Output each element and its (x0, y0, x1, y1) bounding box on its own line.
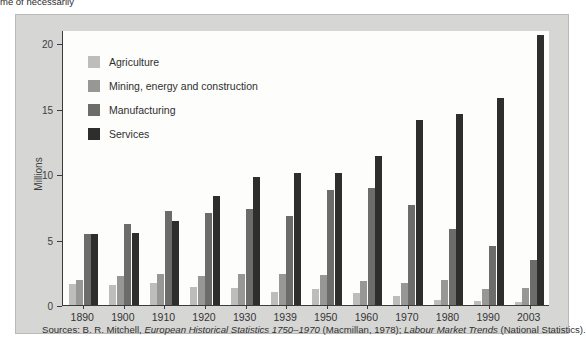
bar-group (474, 31, 504, 305)
bar (522, 288, 529, 305)
bar (165, 211, 172, 305)
bar (456, 114, 463, 305)
bar (150, 283, 157, 305)
bar (312, 289, 319, 305)
cut-off-body-text: me of necessarily (0, 0, 180, 8)
bar (360, 281, 367, 305)
y-tick-label: 20 (27, 39, 53, 50)
bar (231, 288, 238, 305)
y-tick-mark (57, 306, 62, 307)
bar (76, 280, 83, 305)
bar-group (393, 31, 423, 305)
legend-label: Mining, energy and construction (109, 80, 258, 92)
bar (335, 173, 342, 305)
bar (91, 234, 98, 305)
x-tick-mark (205, 305, 206, 309)
bar (294, 173, 301, 305)
bar (408, 205, 415, 305)
bar (393, 296, 400, 305)
bar (271, 292, 278, 305)
bar (482, 289, 489, 305)
x-tick-label: 1939 (265, 311, 305, 323)
bar (401, 283, 408, 305)
x-tick-mark (449, 305, 450, 309)
legend-swatch-icon (88, 128, 100, 140)
y-tick-label: 15 (27, 104, 53, 115)
x-tick-mark (327, 305, 328, 309)
x-tick-mark (367, 305, 368, 309)
source-prefix: Sources: B. R. Mitchell, (42, 324, 144, 335)
bar (497, 98, 504, 305)
bar (353, 293, 360, 305)
bar (327, 190, 334, 305)
bar (286, 216, 293, 305)
bar (124, 224, 131, 305)
legend-item: Agriculture (88, 51, 348, 72)
bar-group (515, 31, 545, 305)
legend-label: Services (109, 128, 149, 140)
source-title-one: European Historical Statistics 1750–1970 (144, 324, 319, 335)
x-tick-mark (124, 305, 125, 309)
bar (320, 275, 327, 305)
x-tick-label: 1950 (306, 311, 346, 323)
bar (205, 213, 212, 305)
bar (172, 221, 179, 305)
bar (368, 188, 375, 305)
bar (198, 276, 205, 305)
bar (537, 35, 544, 305)
bar (474, 301, 481, 305)
bar (434, 300, 441, 305)
x-tick-label: 1960 (346, 311, 386, 323)
bar (69, 284, 76, 305)
bar (84, 234, 91, 305)
x-tick-label: 1920 (184, 311, 224, 323)
legend-item: Manufacturing (88, 99, 348, 120)
y-tick-label: 0 (27, 301, 53, 312)
x-tick-label: 1910 (143, 311, 183, 323)
bar-group (353, 31, 383, 305)
bar (213, 196, 220, 305)
x-tick-mark (408, 305, 409, 309)
y-tick-label: 10 (27, 170, 53, 181)
x-tick-label: 1980 (428, 311, 468, 323)
x-tick-label: 1970 (387, 311, 427, 323)
bar (246, 209, 253, 305)
bar (190, 287, 197, 305)
x-tick-label: 1930 (225, 311, 265, 323)
legend-item: Mining, energy and construction (88, 75, 348, 96)
x-tick-mark (530, 305, 531, 309)
bar (530, 260, 537, 305)
bar (157, 274, 164, 305)
x-tick-mark (83, 305, 84, 309)
legend-label: Manufacturing (109, 104, 176, 116)
bar (117, 276, 124, 305)
bar (132, 233, 139, 305)
legend-item: Services (88, 123, 348, 144)
figure-panel: Millions 05101520 1890190019101920193019… (15, 14, 569, 334)
source-note: Sources: B. R. Mitchell, European Histor… (42, 324, 552, 335)
x-tick-mark (164, 305, 165, 309)
bar (489, 246, 496, 305)
x-tick-label: 2003 (509, 311, 549, 323)
x-tick-label: 1990 (468, 311, 508, 323)
bar-group (434, 31, 464, 305)
x-tick-mark (489, 305, 490, 309)
x-tick-label: 1900 (103, 311, 143, 323)
bar (253, 177, 260, 305)
bar (449, 229, 456, 305)
chart-legend: AgricultureMining, energy and constructi… (88, 51, 348, 147)
bar (238, 274, 245, 305)
source-suffix: (National Statistics). (498, 324, 586, 335)
x-tick-mark (246, 305, 247, 309)
legend-label: Agriculture (109, 56, 159, 68)
x-tick-mark (286, 305, 287, 309)
bar (279, 274, 286, 305)
legend-swatch-icon (88, 56, 100, 68)
bar (375, 156, 382, 305)
bar (109, 285, 116, 305)
bar (441, 280, 448, 305)
x-tick-label: 1890 (62, 311, 102, 323)
legend-swatch-icon (88, 80, 100, 92)
bar (515, 302, 522, 305)
